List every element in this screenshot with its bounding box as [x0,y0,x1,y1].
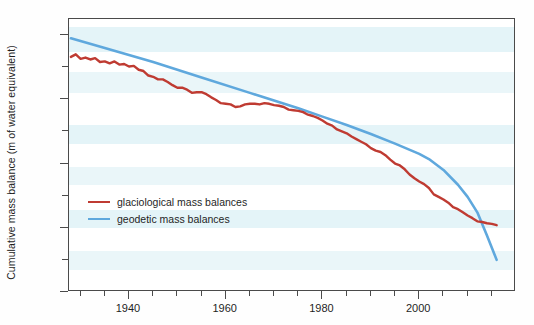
plot-area [68,18,515,291]
x-tick-minor [104,291,105,296]
x-tick-minor [467,291,468,296]
y-tick-major [60,98,68,99]
y-tick-major [60,34,68,35]
y-axis-title: Cumulative mass balance (m of water equi… [0,0,22,325]
legend-item-geodetic: geodetic mass balances [88,210,247,227]
x-tick-label: 1980 [296,302,346,314]
y-tick-minor [62,195,68,196]
x-tick-major [321,291,322,299]
legend-label-glaciological: glaciological mass balances [117,196,247,208]
x-tick-minor [442,291,443,296]
x-tick-major [418,291,419,299]
x-tick-minor [273,291,274,296]
y-tick-minor [62,130,68,131]
y-tick-minor [62,259,68,260]
x-tick-minor [370,291,371,296]
x-tick-major [128,291,129,299]
x-tick-minor [201,291,202,296]
x-tick-label: 2000 [393,302,443,314]
chart-figure: Cumulative mass balance (m of water equi… [0,0,534,325]
y-tick-minor [62,66,68,67]
legend-swatch-geodetic [88,218,110,220]
x-tick-label: 1940 [103,302,153,314]
legend-swatch-glaciological [88,201,110,203]
legend-item-glaciological: glaciological mass balances [88,193,247,210]
x-tick-minor [80,291,81,296]
x-tick-minor [491,291,492,296]
x-tick-minor [152,291,153,296]
y-tick-major [60,163,68,164]
y-tick-major [60,227,68,228]
x-tick-label: 1960 [200,302,250,314]
x-tick-minor [176,291,177,296]
x-tick-minor [297,291,298,296]
x-tick-minor [394,291,395,296]
chart-legend: glaciological mass balances geodetic mas… [88,193,247,227]
x-tick-minor [346,291,347,296]
data-lines [69,19,515,291]
x-tick-major [225,291,226,299]
x-tick-minor [249,291,250,296]
y-tick-major [60,291,68,292]
legend-label-geodetic: geodetic mass balances [117,213,230,225]
